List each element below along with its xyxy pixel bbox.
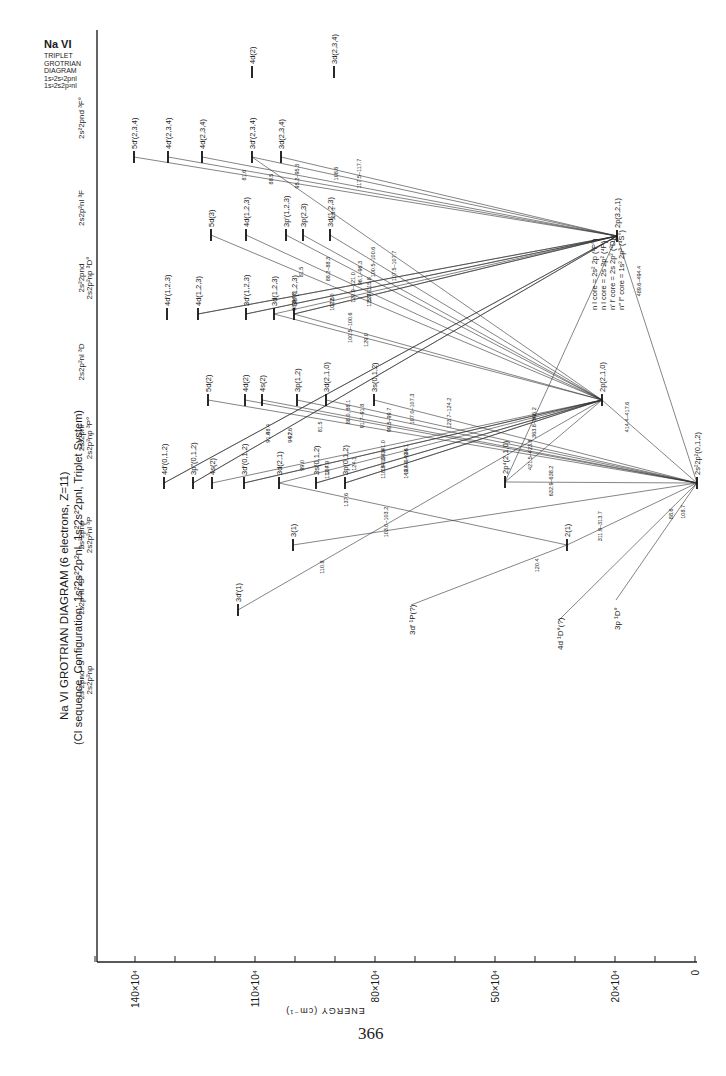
level-label: 3p(1,2) (293, 368, 302, 392)
transition: 108.7 (616, 483, 697, 600)
transition-wavelength: 108.6 (333, 167, 339, 181)
level-label: 3s(0,1,2) (312, 445, 321, 475)
column-header-3Po: 2s2p²np ³P° (85, 417, 94, 459)
transition-wavelength: 117.5–117.7 (356, 159, 362, 189)
column-header-3F: 2s2p²nl ³F (77, 190, 86, 226)
level-label: 3d′(1,2,3) (242, 274, 251, 306)
column-headers: 2s²2pnd ³F°2s2p²nl ³F2s²2pnd2s2p²np ³D°2… (77, 97, 94, 700)
column-header-3D: 2s2p²nl ³D (77, 343, 86, 380)
level-label: 4d(1,2,3) (194, 275, 203, 306)
level-label: 3d′(1) (234, 583, 243, 602)
title-block: Na VI GROTRIAN DIAGRAM (6 electrons, Z=1… (44, 38, 84, 745)
grotrian-diagram: 140×10⁴110×10⁴80×10⁴50×10⁴20×10⁴0ENERGY … (0, 0, 726, 1076)
transition-wavelength: 100.5–100.6 (347, 312, 353, 343)
level-do_3pp: 3p′(1,2,3) (282, 195, 291, 241)
transition-line (294, 236, 617, 314)
level-label: 4s(2) (258, 374, 267, 392)
level-label: 4d′(2,3,4) (164, 117, 173, 149)
transition-line (198, 236, 617, 314)
level-do_4d: 4d(1,2,3) (242, 196, 251, 241)
transition-line (211, 235, 602, 400)
transition-wavelength: 103.0–103.2 (383, 507, 389, 538)
level-label: 4d′(1,2,3) (163, 274, 172, 306)
transition-wavelength: 120.4 (534, 558, 540, 572)
transition-wavelength: 95.2–95.3 (294, 164, 300, 188)
transition: 123.1 (294, 236, 617, 314)
level-label: 2s²2p²(0,1,2) (693, 432, 702, 475)
energy-axis: 140×10⁴110×10⁴80×10⁴50×10⁴20×10⁴0ENERGY … (95, 956, 701, 1016)
transition: 96.1–96.3 (286, 235, 602, 400)
level-f_3dp: 3d′(2,3,4) (248, 117, 257, 163)
transition: 113.1 (252, 157, 602, 400)
transition-wavelength: 110.8 (319, 560, 325, 573)
level-do_5d: 5d(3) (207, 209, 216, 241)
transition: 88.6 (559, 483, 697, 620)
column-header-3So: 2s2p²nl ³S° (77, 575, 86, 615)
transition-wavelength: 99.5–99.7 (386, 408, 392, 432)
legend-entry: n′ l′ core = 2s 2p² (²D) (608, 238, 617, 310)
axis-tick-label: 80×10⁴ (370, 970, 381, 1002)
level-label: 4d(2) (241, 374, 250, 392)
level-label: 4d(2,3,4) (198, 118, 207, 149)
transition-wavelength: 88.4 (265, 424, 271, 435)
corner-title-line: GROTRIAN (44, 60, 81, 67)
transition: 81.5 (211, 235, 602, 400)
transition-line (279, 483, 567, 545)
level-p_3pp: 3p‴(0,1,2) (189, 442, 198, 489)
level-do_3p: 3p(2,3) (299, 203, 308, 241)
transition-line (252, 157, 602, 400)
level-f_4dp: 4d′(2,3,4) (164, 117, 173, 163)
transition: 103.0–103.2 (293, 483, 697, 545)
column-header-3Fo: 2s²2pnd ³F° (77, 97, 86, 139)
transition-wavelength: 414.4–417.6 (624, 402, 630, 433)
transition: 120.4 (411, 545, 567, 605)
transition-line (505, 482, 697, 483)
level-d_4dp: 4d′(1,2,3) (163, 274, 172, 320)
transition-wavelength: 311.9–313.7 (597, 511, 603, 541)
transition-wavelength: 123.1 (366, 289, 372, 303)
level-label: 3p(2,3) (299, 203, 308, 227)
level-po_5d: 5d(2) (204, 374, 213, 406)
corner-title-line: 1s²2s2p²nl (44, 82, 77, 90)
level-label: 2p(3,2,1) (613, 197, 622, 228)
axis-title: ENERGY (cm⁻¹) (285, 1006, 364, 1016)
level-p_3s: 3s(0,1,2) (312, 445, 321, 489)
column-header-3P: 2s2p²nl ³P (85, 517, 94, 553)
level-label: 4d′(0,1,2) (160, 443, 169, 475)
level-po_3p: 3p(1,2) (293, 368, 302, 406)
axis-tick-label: 50×10⁴ (490, 970, 501, 1002)
transition-line (559, 483, 697, 620)
level-label: 2p⁴(2,1,0) (501, 440, 510, 474)
transition-wavelength: 112.4 (324, 465, 330, 478)
level-label: 3d(1,2,3) (270, 275, 279, 306)
level-p4: 2p⁴(2,1,0) (501, 440, 510, 488)
transition-line (616, 483, 697, 600)
axis-tick-label: 140×10⁴ (130, 970, 141, 1008)
transition: 94.8 (198, 236, 617, 314)
transition-wavelength: 489.6–494.4 (636, 266, 642, 297)
level-label: 4d(1,2,3) (242, 196, 251, 227)
transition-wavelength: 88.2–88.3 (325, 257, 331, 281)
singlet-ref-label: 4d ¹D°(?) (556, 617, 565, 650)
transition-wavelength: 421.5–423.8 (527, 439, 533, 470)
energy-levels: 2s²2p²(0,1,2)2p(3,2,1)2p(2,1,0)2p⁴(2,1,0… (130, 33, 702, 650)
core-legend: n l core = 2s² 2p (²P°)n l core = 2s 2p²… (590, 229, 626, 310)
level-label: 2(1) (563, 523, 572, 537)
legend-entry: n l core = 2s² 2p (²P°) (590, 238, 599, 310)
level-f_5dp: 5d′(2,3,4) (130, 117, 139, 163)
transition-line (168, 157, 617, 236)
level-fo_3d: 3d(2,3,4) (330, 33, 339, 78)
singlet-ref-label: 3d′ ¹P(?) (408, 604, 417, 635)
level-s_3dp: 3d′(1) (234, 583, 243, 616)
transition-line (293, 483, 697, 545)
level-label: 3d(2,1) (275, 451, 284, 475)
transition-wavelength: 129.0 (363, 333, 369, 347)
column-header-3S: 2s2p²np (85, 665, 94, 694)
legend-entry: n l core = 2s 2p² (⁴P) (599, 240, 608, 310)
level-f_3d: 3d(2,3,4) (277, 118, 286, 163)
transition-wavelength: 94.2 (287, 432, 293, 443)
transition: 137.6 (279, 483, 567, 545)
transition-wavelength: 81.5 (317, 422, 323, 433)
level-label: 4d(2) (248, 46, 257, 64)
level-po_4s: 4s(2) (258, 374, 267, 406)
